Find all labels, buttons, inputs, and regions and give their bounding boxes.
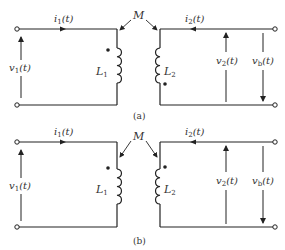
caption-a: (a) xyxy=(133,111,145,121)
mutual-arrow-right-a xyxy=(146,20,157,30)
polarity-dot-l2-a xyxy=(163,82,167,86)
polarity-dot-l1-a xyxy=(106,48,110,52)
label-i1-a: i1(t) xyxy=(54,13,74,26)
mutual-arrow-left-b xyxy=(120,141,131,157)
inductor-l2-b xyxy=(156,169,160,204)
label-v1-b: v1(t) xyxy=(9,180,31,193)
panel-b: i1(t) v1(t) L1 i2(t) v2(t) vb(t) L2 M (b… xyxy=(9,126,277,246)
coupled-inductor-diagram: i1(t) v1(t) L1 i2(t) v2(t) vb(t) L2 M (a… xyxy=(0,0,285,250)
label-v2-a: v2(t) xyxy=(216,55,238,68)
terminal-right-top-a xyxy=(273,27,277,31)
label-l2-b: L2 xyxy=(163,183,176,197)
terminal-left-bottom-b xyxy=(15,225,19,229)
label-i1-b: i1(t) xyxy=(54,126,74,139)
label-v1-a: v1(t) xyxy=(9,62,31,75)
current-arrow-i2-b xyxy=(190,140,196,145)
caption-b: (b) xyxy=(133,236,146,246)
mutual-arrow-right-b xyxy=(146,141,157,157)
label-l1-a: L1 xyxy=(95,65,108,79)
terminal-right-top-b xyxy=(273,140,277,144)
terminal-right-bottom-b xyxy=(273,225,277,229)
terminal-left-top-a xyxy=(15,27,19,31)
label-mutual-b: M xyxy=(132,130,145,143)
label-vb-b: vb(t) xyxy=(252,175,274,188)
terminal-left-bottom-a xyxy=(15,103,19,107)
inductor-l2-a xyxy=(156,48,160,83)
terminal-left-top-b xyxy=(15,140,19,144)
panel-a: i1(t) v1(t) L1 i2(t) v2(t) vb(t) L2 M (a… xyxy=(9,9,277,121)
label-i2-a: i2(t) xyxy=(185,13,205,26)
polarity-dot-l2-b xyxy=(163,165,167,169)
current-arrow-i1-a xyxy=(60,27,66,32)
label-i2-b: i2(t) xyxy=(185,126,205,139)
polarity-dot-l1-b xyxy=(106,166,110,170)
label-l2-a: L2 xyxy=(163,65,176,79)
current-arrow-i2-a xyxy=(190,27,196,32)
inductor-l1-a xyxy=(117,48,121,83)
mutual-arrow-left-a xyxy=(120,20,131,30)
label-mutual-a: M xyxy=(132,9,145,22)
label-v2-b: v2(t) xyxy=(216,175,238,188)
label-l1-b: L1 xyxy=(95,183,108,197)
inductor-l1-b xyxy=(117,169,121,204)
current-arrow-i1-b xyxy=(60,140,66,145)
terminal-right-bottom-a xyxy=(273,103,277,107)
label-vb-a: vb(t) xyxy=(252,55,274,68)
